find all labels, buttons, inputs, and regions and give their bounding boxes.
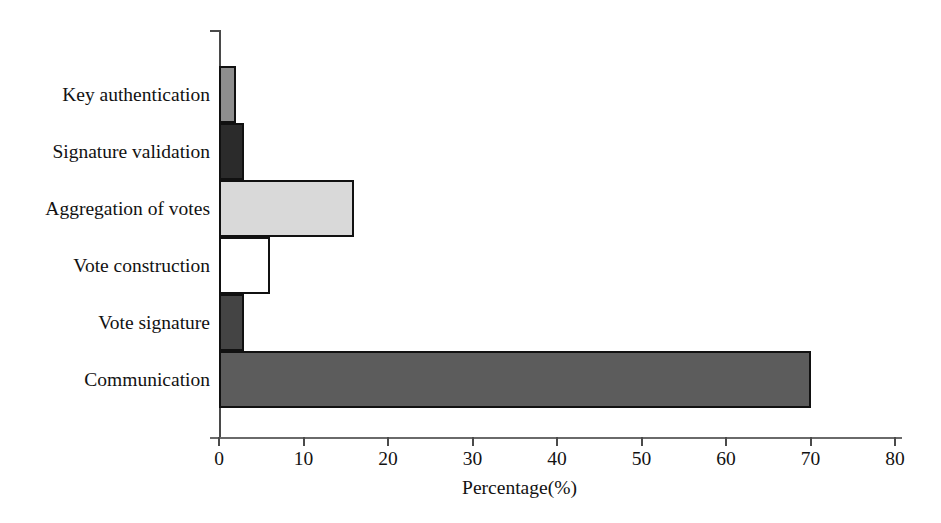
x-tick-label: 80 — [865, 449, 925, 469]
category-label: Aggregation of votes — [0, 199, 210, 219]
x-tick-label: 0 — [189, 449, 249, 469]
category-label: Communication — [0, 370, 210, 390]
x-tick-mark — [556, 437, 558, 446]
x-axis-title-text: Percentage(%) — [462, 478, 577, 498]
x-tick-label: 20 — [358, 449, 418, 469]
category-label: Key authentication — [0, 85, 210, 105]
category-label: Signature validation — [0, 142, 210, 162]
bar — [219, 294, 244, 351]
bar — [219, 123, 244, 180]
x-tick-label: 30 — [443, 449, 503, 469]
x-tick-label: 70 — [781, 449, 841, 469]
x-tick-mark — [810, 437, 812, 446]
category-label: Vote signature — [0, 313, 210, 333]
x-tick-mark — [387, 437, 389, 446]
x-tick-label: 10 — [274, 449, 334, 469]
x-tick-mark — [641, 437, 643, 446]
bar — [219, 66, 236, 123]
x-tick-mark — [303, 437, 305, 446]
x-tick-mark — [894, 437, 896, 446]
bar — [219, 351, 811, 408]
bar-chart: Key authenticationSignature validationAg… — [0, 0, 941, 523]
x-tick-label: 40 — [527, 449, 587, 469]
category-label: Vote construction — [0, 256, 210, 276]
x-tick-mark — [725, 437, 727, 446]
x-tick-label: 60 — [696, 449, 756, 469]
bar — [219, 237, 270, 294]
x-tick-mark — [472, 437, 474, 446]
bar — [219, 180, 354, 237]
x-tick-label: 50 — [612, 449, 672, 469]
x-tick-mark — [218, 437, 220, 446]
x-axis-title: Percentage(%) — [0, 478, 941, 498]
